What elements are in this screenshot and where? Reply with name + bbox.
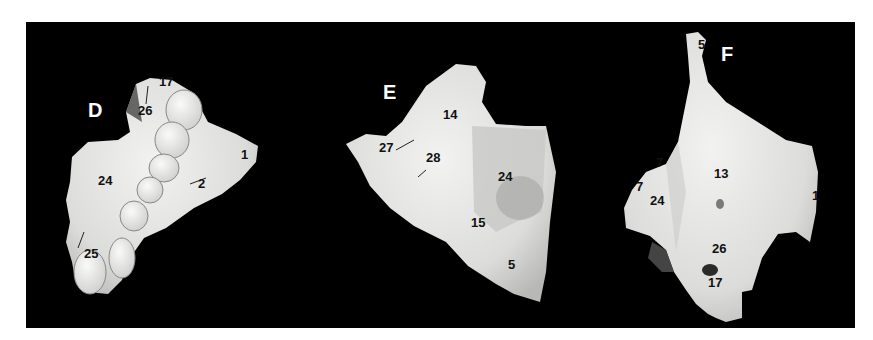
label-f-17: 17 [708,276,722,289]
label-e-24: 24 [498,170,512,183]
panel-label-d: D [88,100,102,120]
label-f-13: 13 [714,167,728,180]
panel-label-e: E [383,82,396,102]
label-e-5: 5 [508,258,515,271]
label-f-7-lower: 7 [636,180,643,193]
label-f-5: 5 [698,38,705,51]
bone-specimens [26,22,855,328]
label-e-27: 27 [379,141,393,154]
label-d-17: 17 [159,75,173,88]
panel-label-f: F [721,44,733,64]
label-d-25: 25 [84,247,98,260]
label-f-24: 24 [650,194,664,207]
label-e-14: 14 [443,108,457,121]
label-f-7-upper: 7 [656,156,663,169]
specimen-e [346,64,556,302]
label-d-2: 2 [198,177,205,190]
label-d-26: 26 [138,104,152,117]
label-f-1: 1 [812,189,819,202]
label-f-26: 26 [712,242,726,255]
figure-plate: D E F 17 26 1 24 2 25 14 27 28 24 15 5 5… [26,22,855,328]
label-d-24: 24 [98,174,112,187]
label-d-1: 1 [241,148,248,161]
label-e-15: 15 [471,216,485,229]
label-e-28: 28 [426,151,440,164]
